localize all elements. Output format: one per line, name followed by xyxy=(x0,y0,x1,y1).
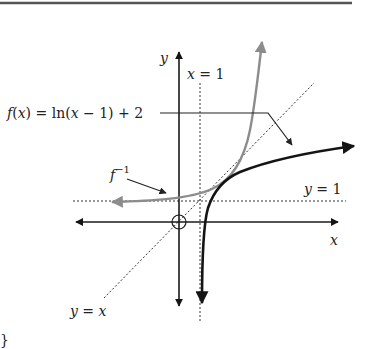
vertical-asymptote-label: x = 1 xyxy=(187,66,224,82)
x-axis-label: x xyxy=(330,232,338,248)
horizontal-asymptote-label: y = 1 xyxy=(303,181,341,197)
brace-symbol: } xyxy=(0,332,9,348)
identity-line-label: y = x xyxy=(69,303,107,319)
inverse-label: f−1 xyxy=(109,164,130,183)
function-label: f(x) = ln(x − 1) + 2 xyxy=(6,105,143,121)
y-axis-label: y xyxy=(159,50,169,66)
inverse-function-diagram: y x = 1 f(x) = ln(x − 1) + 2 f−1 y = 1 x… xyxy=(0,0,371,349)
inverse-label-leader xyxy=(127,179,166,193)
function-curve xyxy=(202,146,354,303)
